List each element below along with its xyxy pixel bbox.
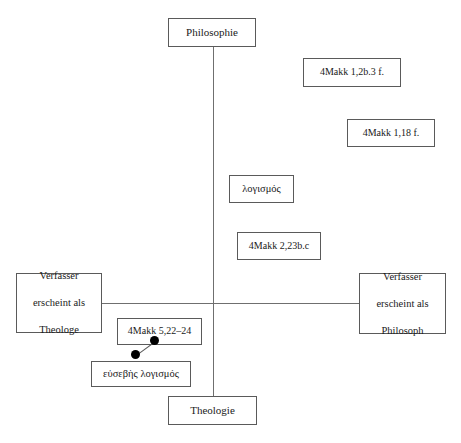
node-reference-4makk-5-22-24-label: 4Makk 5,22–24 [122, 325, 197, 338]
connector-dot-upper [150, 336, 159, 345]
node-verfasser-philosoph-line2: erscheint als [364, 297, 441, 310]
node-reference-4makk-2-23bc-label: 4Makk 2,23b.c [242, 240, 316, 253]
node-eusebes-logismos-label: εὐσεβὴς λογισμός [96, 367, 186, 380]
node-reference-4makk-1-18-label: 4Makk 1,18 f. [352, 127, 430, 140]
node-verfasser-theologe-line3: Theologe [21, 323, 97, 336]
node-verfasser-theologe-line1: Verfasser [21, 269, 97, 282]
node-philosophie[interactable]: Philosophie [168, 18, 256, 47]
diagram-canvas: Philosophie 4Makk 1,2b.3 f. 4Makk 1,18 f… [0, 0, 461, 443]
node-reference-4makk-1-2b-3[interactable]: 4Makk 1,2b.3 f. [303, 58, 401, 87]
node-philosophie-label: Philosophie [173, 25, 251, 39]
node-logismos[interactable]: λογισμός [229, 175, 294, 203]
node-reference-4makk-1-2b-3-label: 4Makk 1,2b.3 f. [308, 66, 396, 79]
node-theologie[interactable]: Theologie [168, 396, 257, 425]
node-theologie-label: Theologie [173, 403, 252, 417]
connector-dot-lower [131, 350, 140, 359]
node-eusebes-logismos[interactable]: εὐσεβὴς λογισμός [91, 361, 191, 387]
horizontal-axis-line [102, 303, 359, 304]
node-verfasser-philosoph-text: Verfasser erscheint als Philosoph [364, 270, 441, 337]
node-verfasser-erscheint-als-theologe[interactable]: Verfasser erscheint als Theologe [16, 273, 102, 333]
vertical-axis-line [213, 47, 214, 396]
node-verfasser-philosoph-line1: Verfasser [364, 270, 441, 283]
node-verfasser-theologe-line2: erscheint als [21, 296, 97, 309]
node-reference-4makk-1-18[interactable]: 4Makk 1,18 f. [347, 119, 435, 147]
node-logismos-label: λογισμός [234, 182, 289, 195]
node-verfasser-philosoph-line3: Philosoph [364, 324, 441, 337]
node-verfasser-theologe-text: Verfasser erscheint als Theologe [21, 269, 97, 336]
node-reference-4makk-2-23bc[interactable]: 4Makk 2,23b.c [237, 232, 321, 260]
node-reference-4makk-5-22-24[interactable]: 4Makk 5,22–24 [117, 318, 202, 345]
node-verfasser-erscheint-als-philosoph[interactable]: Verfasser erscheint als Philosoph [359, 273, 446, 334]
